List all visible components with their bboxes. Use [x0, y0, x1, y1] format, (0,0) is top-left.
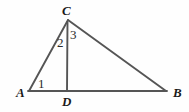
- segment-cd-altitude: [67, 22, 68, 91]
- angle-label-1: 1: [38, 77, 45, 90]
- vertex-label-a: A: [16, 86, 25, 99]
- segment-cb: [68, 20, 166, 91]
- vertex-label-c: C: [62, 4, 71, 17]
- angle-label-2: 2: [57, 36, 64, 49]
- vertex-label-b: B: [173, 86, 182, 99]
- angle-label-3: 3: [70, 28, 77, 41]
- segment-ac: [29, 20, 68, 91]
- vertex-label-d: D: [62, 95, 71, 108]
- geometry-figure: A B C D 1 2 3: [0, 0, 189, 112]
- triangle-diagram-svg: [0, 0, 189, 112]
